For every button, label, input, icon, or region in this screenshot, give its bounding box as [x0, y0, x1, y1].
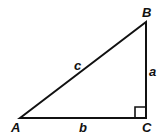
side-label-a: a — [149, 64, 156, 79]
vertex-label-c: C — [142, 120, 152, 135]
vertex-label-b: B — [142, 5, 151, 20]
side-label-c: c — [74, 58, 82, 73]
triangle-outline — [20, 22, 146, 118]
right-triangle-diagram: A B C a b c — [0, 0, 167, 137]
vertex-label-a: A — [10, 120, 20, 135]
side-label-b: b — [79, 120, 87, 135]
right-angle-marker — [135, 107, 146, 118]
